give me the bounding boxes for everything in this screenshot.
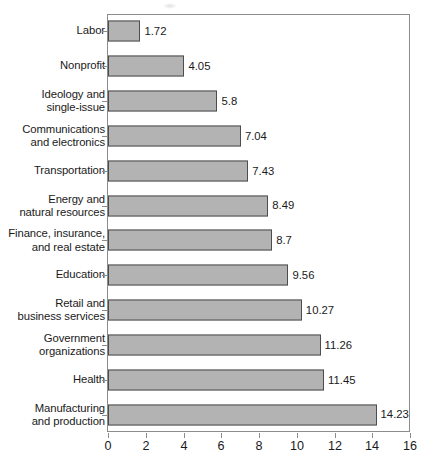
bar-row: Nonprofit4.05 [0, 49, 423, 84]
bar-with-value: 1.72 [108, 21, 166, 42]
category-label-line: Health [73, 373, 105, 386]
bar [108, 195, 268, 216]
y-axis-tick [102, 206, 108, 207]
bar-row: Retail andbusiness services10.27 [0, 293, 423, 328]
x-axis-tick-label: 14 [365, 439, 379, 453]
x-axis-tick [221, 433, 222, 438]
bar-with-value: 8.7 [108, 230, 292, 251]
bar [108, 404, 377, 425]
x-axis-tick [410, 433, 411, 438]
x-axis-tick [372, 433, 373, 438]
x-axis-tick [259, 433, 260, 438]
bar-chart: Labor1.72Nonprofit4.05Ideology andsingle… [0, 0, 423, 460]
bar-row: Finance, insurance,and real estate8.7 [0, 223, 423, 258]
bar-value-label: 4.05 [188, 61, 210, 72]
bar-with-value: 9.56 [108, 265, 314, 286]
y-axis-tick [102, 380, 108, 381]
category-label: Governmentorganizations [39, 332, 105, 358]
category-label: Finance, insurance,and real estate [8, 227, 105, 253]
bar [108, 369, 324, 390]
bar-row: Energy andnatural resources8.49 [0, 188, 423, 223]
bar-with-value: 8.49 [108, 195, 294, 216]
x-axis-tick-label: 16 [403, 439, 417, 453]
category-label-line: and production [32, 415, 105, 428]
bar [108, 56, 184, 77]
bar-with-value: 4.05 [108, 56, 210, 77]
x-axis-tick [146, 433, 147, 438]
bar-with-value: 11.26 [108, 334, 352, 355]
category-label: Manufacturingand production [32, 401, 105, 427]
bar-with-value: 7.43 [108, 160, 274, 181]
bar [108, 21, 140, 42]
bar-with-value: 7.04 [108, 125, 267, 146]
bar-row: Manufacturingand production14.23 [0, 397, 423, 432]
category-label-line: Manufacturing [32, 401, 105, 414]
y-axis-tick [102, 415, 108, 416]
category-label: Retail andbusiness services [18, 297, 105, 323]
category-label-line: natural resources [19, 206, 105, 219]
bar-row: Communicationsand electronics7.04 [0, 119, 423, 154]
category-label-line: Retail and [18, 297, 105, 310]
category-label: Ideology andsingle-issue [42, 88, 106, 114]
y-axis-tick [102, 240, 108, 241]
bar-with-value: 11.45 [108, 369, 356, 390]
bar-value-label: 11.26 [325, 339, 352, 350]
y-axis-tick [102, 310, 108, 311]
bar-with-value: 10.27 [108, 300, 334, 321]
bar-row: Ideology andsingle-issue5.8 [0, 84, 423, 119]
y-axis-tick [102, 275, 108, 276]
category-label-line: and real estate [8, 240, 105, 253]
category-label: Communicationsand electronics [22, 123, 105, 149]
y-axis-tick [102, 31, 108, 32]
y-axis-tick [102, 171, 108, 172]
x-axis-tick-label: 2 [142, 439, 149, 453]
x-axis-tick-label: 4 [180, 439, 187, 453]
bar [108, 230, 272, 251]
bar-value-label: 9.56 [292, 270, 314, 281]
bar-row: Governmentorganizations11.26 [0, 328, 423, 363]
bar-value-label: 8.49 [272, 200, 294, 211]
bar [108, 125, 241, 146]
bar-value-label: 8.7 [276, 235, 292, 246]
category-label: Education [56, 269, 105, 282]
scan-artifact [163, 3, 177, 9]
bar-row: Health11.45 [0, 362, 423, 397]
category-label: Nonprofit [60, 60, 105, 73]
bar-value-label: 7.43 [252, 165, 274, 176]
bar-value-label: 7.04 [245, 130, 267, 141]
x-axis-tick [108, 433, 109, 438]
category-label-line: Communications [22, 123, 105, 136]
bar [108, 160, 248, 181]
y-axis-tick [102, 345, 108, 346]
x-axis-tick-label: 6 [217, 439, 224, 453]
bar-value-label: 5.8 [221, 95, 237, 106]
category-label-line: organizations [39, 345, 105, 358]
category-label-line: Education [56, 269, 105, 282]
category-label: Labor [77, 25, 105, 38]
category-label: Energy andnatural resources [19, 192, 105, 218]
bar-with-value: 5.8 [108, 91, 237, 112]
y-axis-tick [102, 101, 108, 102]
bar-value-label: 10.27 [306, 304, 334, 315]
category-label-line: single-issue [42, 101, 106, 114]
bar-value-label: 1.72 [144, 26, 166, 37]
bar-row: Transportation7.43 [0, 153, 423, 188]
bar [108, 334, 321, 355]
x-axis-tick-label: 12 [328, 439, 342, 453]
x-axis-tick-label: 8 [255, 439, 262, 453]
bar-row: Education9.56 [0, 258, 423, 293]
category-label-line: Ideology and [42, 88, 106, 101]
bar-value-label: 14.23 [381, 409, 409, 420]
category-label-line: and electronics [22, 136, 105, 149]
category-label: Transportation [34, 164, 105, 177]
category-label-line: business services [18, 310, 105, 323]
bar [108, 91, 217, 112]
bar [108, 300, 302, 321]
category-label-line: Finance, insurance, [8, 227, 105, 240]
bar-row: Labor1.72 [0, 14, 423, 49]
x-axis-tick [297, 433, 298, 438]
bar [108, 265, 288, 286]
x-axis-tick-label: 10 [290, 439, 304, 453]
category-label-line: Government [39, 332, 105, 345]
category-label-line: Energy and [19, 192, 105, 205]
